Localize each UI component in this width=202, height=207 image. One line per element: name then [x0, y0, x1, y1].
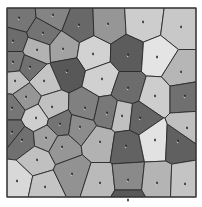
- seed-point: [156, 182, 158, 185]
- seed-point: [101, 78, 103, 81]
- voronoi-cell: [111, 190, 146, 197]
- seed-point: [154, 95, 156, 98]
- seed-point: [127, 54, 129, 57]
- seed-point: [29, 66, 31, 69]
- seed-point: [107, 23, 109, 26]
- voronoi-cell: [170, 82, 196, 113]
- seed-point: [180, 71, 182, 74]
- seed-point: [125, 145, 127, 148]
- seed-point: [79, 126, 81, 129]
- seed-point: [36, 159, 38, 162]
- voronoi-cells: [7, 8, 196, 197]
- seed-point: [12, 61, 14, 64]
- seed-point: [16, 180, 18, 183]
- seed-point: [36, 49, 38, 52]
- seed-point: [44, 186, 46, 189]
- seed-point: [156, 56, 158, 59]
- seed-point: [14, 80, 16, 83]
- voronoi-cell: [142, 161, 172, 197]
- seed-point: [11, 131, 13, 134]
- seed-point: [139, 117, 141, 120]
- seed-point: [92, 53, 94, 56]
- seed-point: [59, 123, 61, 126]
- seed-point: [84, 107, 86, 110]
- seed-point: [184, 183, 186, 186]
- seed-point: [42, 32, 44, 35]
- seed-point: [43, 80, 45, 83]
- seed-point: [62, 48, 64, 51]
- seed-point: [21, 139, 23, 142]
- seed-point: [180, 26, 182, 29]
- seed-point: [142, 21, 144, 24]
- seed-point: [52, 14, 54, 17]
- seed-point: [177, 140, 179, 143]
- seed-point: [127, 87, 129, 90]
- seed-point: [18, 17, 20, 20]
- seed-point: [99, 141, 101, 144]
- seed-point: [121, 115, 123, 118]
- voronoi-cell: [171, 160, 196, 197]
- seed-point: [51, 106, 53, 109]
- seed-point: [154, 139, 156, 142]
- seed-point: [12, 40, 14, 43]
- seed-point: [11, 107, 13, 110]
- seed-point: [99, 182, 101, 185]
- seed-point: [66, 70, 68, 73]
- seed-point: [184, 95, 186, 98]
- seed-point: [78, 24, 80, 27]
- seed-point: [186, 127, 188, 130]
- voronoi-cell: [112, 162, 144, 190]
- voronoi-diagram: [0, 0, 202, 207]
- seed-point: [71, 173, 73, 176]
- seed-point: [25, 96, 27, 99]
- seed-point: [127, 199, 129, 202]
- seed-point: [61, 146, 63, 149]
- seed-point: [127, 179, 129, 182]
- seed-point: [106, 112, 108, 115]
- seed-point: [35, 117, 37, 120]
- seed-point: [45, 137, 47, 140]
